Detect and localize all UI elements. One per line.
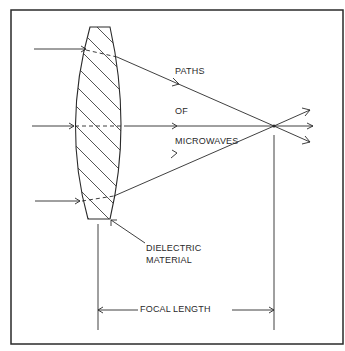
refracted-rays	[114, 57, 313, 196]
label-microwaves: MICROWAVES	[175, 136, 239, 147]
label-material: MATERIAL	[146, 255, 192, 266]
incoming-rays	[32, 46, 86, 204]
label-dielectric: DIELECTRIC	[146, 243, 202, 254]
microwave-lens-diagram: PATHS OF MICROWAVES DIELECTRIC MATERIAL …	[0, 0, 345, 351]
dielectric-pointer	[111, 220, 145, 243]
label-of: OF	[175, 106, 188, 117]
label-paths: PATHS	[175, 66, 205, 77]
label-focal: FOCAL	[140, 304, 171, 315]
label-length: LENGTH	[173, 304, 211, 315]
frame-border	[11, 10, 343, 344]
dielectric-lens	[40, 0, 160, 310]
diagram-canvas	[0, 0, 345, 351]
focal-point	[273, 125, 276, 128]
